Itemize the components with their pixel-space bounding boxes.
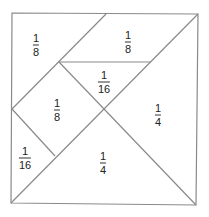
denominator: 4 xyxy=(100,165,106,176)
numerator: 1 xyxy=(33,33,39,44)
numerator: 1 xyxy=(125,30,131,41)
fraction-label-right-large-triangle: 1 4 xyxy=(155,103,161,128)
denominator: 4 xyxy=(155,117,161,128)
denominator: 16 xyxy=(19,160,31,171)
numerator: 1 xyxy=(54,98,60,109)
fraction-label-bottom-left-small-triangle: 1 16 xyxy=(19,146,31,171)
denominator: 8 xyxy=(54,112,60,123)
fraction-label-bottom-large-triangle: 1 4 xyxy=(100,151,106,176)
denominator: 8 xyxy=(33,47,39,58)
fraction-label-top-parallelogram: 1 8 xyxy=(125,30,131,55)
numerator: 1 xyxy=(101,70,107,81)
fraction-label-left-square: 1 8 xyxy=(54,98,60,123)
tangram-lines xyxy=(0,0,209,217)
fraction-label-middle-small-triangle: 1 16 xyxy=(98,70,110,95)
numerator: 1 xyxy=(22,146,28,157)
fraction-label-top-left-triangle: 1 8 xyxy=(33,33,39,58)
numerator: 1 xyxy=(155,103,161,114)
denominator: 8 xyxy=(125,44,131,55)
numerator: 1 xyxy=(100,151,106,162)
denominator: 16 xyxy=(98,84,110,95)
